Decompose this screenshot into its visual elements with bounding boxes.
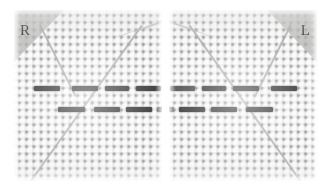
band-dash xyxy=(58,107,85,112)
band-dash xyxy=(271,86,297,91)
band-dash xyxy=(72,86,98,91)
band-dash xyxy=(179,107,205,112)
band-dash xyxy=(202,86,226,91)
figure-canvas: R L xyxy=(0,0,330,190)
panel-label-l: L xyxy=(301,23,310,38)
band-dash xyxy=(233,86,259,91)
band-dash xyxy=(34,86,60,91)
panel-label-r: R xyxy=(20,23,30,38)
band-dash xyxy=(94,107,120,112)
band-dash xyxy=(211,107,237,112)
band-dash xyxy=(126,107,152,112)
panel-left[interactable]: L xyxy=(169,10,317,181)
band-dash xyxy=(246,107,273,112)
band-dash xyxy=(170,86,195,91)
panel-right[interactable]: R xyxy=(14,10,162,181)
band-dash xyxy=(136,86,161,91)
band-dash xyxy=(105,86,129,91)
band-dash xyxy=(157,107,162,112)
band-dash xyxy=(169,107,174,112)
